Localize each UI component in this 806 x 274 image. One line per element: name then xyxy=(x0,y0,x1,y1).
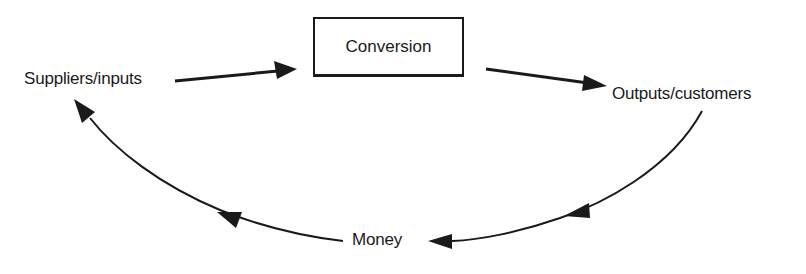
conversion-box: Conversion xyxy=(313,17,464,77)
arrow-outputs-to-money xyxy=(428,111,702,249)
conversion-label: Conversion xyxy=(346,37,432,57)
arrow-money-to-suppliers xyxy=(74,99,343,241)
arrowhead-icon xyxy=(428,234,452,249)
arrow-conversion-to-outputs xyxy=(486,69,607,91)
money-label: Money xyxy=(352,230,402,250)
mid-arrowhead-icon xyxy=(217,212,242,228)
suppliers-inputs-label: Suppliers/inputs xyxy=(24,69,142,89)
outputs-customers-label: Outputs/customers xyxy=(612,84,751,104)
mid-arrowhead-icon xyxy=(564,203,590,218)
arrow-suppliers-to-conversion xyxy=(175,61,297,81)
